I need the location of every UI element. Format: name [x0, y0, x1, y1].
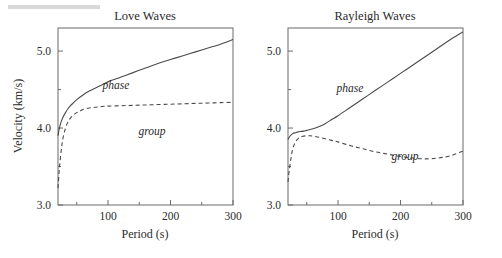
x-tick-label: 300: [454, 210, 472, 222]
grey-bar-artifact: [8, 5, 100, 9]
curve-phase: [288, 32, 463, 140]
dispersion-curves-figure: 1002003003.04.05.0Love WavesPeriod (s)ph…: [0, 0, 502, 258]
curve-group: [288, 136, 463, 182]
x-tick-label: 300: [224, 210, 242, 222]
curve-group: [58, 102, 233, 188]
x-tick-label: 200: [162, 210, 180, 222]
curve-annotation-group: group: [138, 125, 165, 138]
figure-root: 1002003003.04.05.0Love WavesPeriod (s)ph…: [0, 0, 502, 258]
y-tick-label: 4.0: [267, 122, 282, 134]
x-tick-label: 100: [329, 210, 347, 222]
y-tick-label: 4.0: [37, 122, 52, 134]
curve-annotation-group: group: [391, 150, 418, 163]
panel-title: Rayleigh Waves: [334, 9, 415, 23]
curve-annotation-phase: phase: [336, 82, 364, 95]
y-tick-label: 5.0: [267, 45, 282, 57]
panel-love-waves: 1002003003.04.05.0Love WavesPeriod (s)ph…: [37, 9, 242, 241]
x-tick-label: 200: [392, 210, 410, 222]
y-axis-title: Velocity (km/s): [11, 79, 25, 153]
x-axis-title: Period (s): [122, 227, 169, 241]
x-tick-label: 100: [99, 210, 117, 222]
curve-annotation-phase: phase: [102, 79, 130, 92]
y-tick-label: 3.0: [37, 199, 52, 211]
curve-phase: [58, 40, 233, 136]
panel-rayleigh-waves: 1002003003.04.05.0Rayleigh WavesPeriod (…: [267, 9, 472, 241]
plot-frame: [288, 28, 463, 205]
plot-frame: [58, 28, 233, 205]
y-tick-label: 3.0: [267, 199, 282, 211]
y-tick-label: 5.0: [37, 45, 52, 57]
panel-title: Love Waves: [114, 9, 176, 23]
x-axis-title: Period (s): [352, 227, 399, 241]
